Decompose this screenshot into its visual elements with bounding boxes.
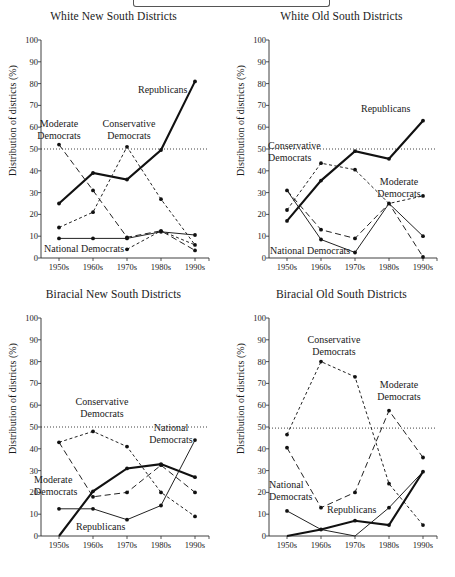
y-tick: 50 [16, 145, 38, 154]
annotation-conservative-democrats: ConservativeDemocrats [301, 334, 367, 357]
y-tick: 90 [16, 58, 38, 67]
y-tick: 0 [244, 532, 266, 541]
y-tick: 10 [244, 510, 266, 519]
y-tick: 100 [244, 314, 266, 323]
chart-panel-white-old-south: White Old South Districts Distribution o… [228, 10, 455, 298]
chart-panel-white-new-south: White New South Districts Distribution o… [0, 10, 227, 298]
y-tick: 20 [16, 210, 38, 219]
y-tick: 0 [16, 254, 38, 263]
y-tick: 80 [16, 358, 38, 367]
y-tick: 80 [244, 358, 266, 367]
x-tick: 1990s [403, 541, 443, 550]
y-tick: 80 [16, 80, 38, 89]
plot-area: 100 90 80 70 60 50 40 30 20 10 0 1950s 1… [269, 318, 437, 536]
y-tick: 50 [244, 145, 266, 154]
y-tick: 30 [244, 189, 266, 198]
y-tick: 20 [244, 210, 266, 219]
y-tick: 60 [16, 401, 38, 410]
plot-area: 100 90 80 70 60 50 40 30 20 10 0 1950s 1… [41, 40, 209, 258]
y-tick: 100 [244, 36, 266, 45]
y-tick: 70 [244, 379, 266, 388]
annotation-moderate-democrats: ModerateDemocrats [34, 474, 77, 497]
series-republicans [59, 81, 195, 203]
chart-panel-biracial-old-south: Biracial Old South Districts Distributio… [228, 288, 455, 576]
data-markers [57, 80, 197, 253]
annotation-moderate-democrats: ModerateDemocrats [33, 118, 85, 141]
chart-panel-biracial-new-south: Biracial New South Districts Distributio… [0, 288, 227, 576]
series-moderate-democrats [59, 145, 195, 251]
x-tick: 1990s [403, 263, 443, 272]
y-tick: 60 [244, 123, 266, 132]
annotation-republicans: Republicans [138, 84, 187, 96]
annotation-conservative-democrats: ConservativeDemocrats [96, 118, 162, 141]
plot-area: 100 90 80 70 60 50 40 30 20 10 0 1950s 1… [269, 40, 437, 258]
y-tick: 70 [16, 379, 38, 388]
y-tick: 40 [244, 445, 266, 454]
y-tick: 0 [244, 254, 266, 263]
annotation-republicans: Republicans [327, 504, 376, 516]
annotation-republicans: Republicans [361, 103, 410, 115]
series-national-democrats [287, 190, 423, 252]
annotation-moderate-democrats: ModerateDemocrats [373, 379, 425, 402]
annotation-moderate-democrats: ModerateDemocrats [373, 176, 425, 199]
y-tick: 60 [244, 401, 266, 410]
y-tick: 30 [16, 189, 38, 198]
y-tick: 0 [16, 532, 38, 541]
y-tick: 90 [16, 336, 38, 345]
y-tick: 70 [16, 101, 38, 110]
y-tick: 100 [16, 314, 38, 323]
chart-title: White Old South Districts [228, 10, 455, 22]
y-tick: 30 [244, 467, 266, 476]
plot-area: 100 90 80 70 60 50 40 30 20 10 0 1950s 1… [41, 318, 209, 536]
annotation-conservative-democrats: ConservativeDemocrats [69, 396, 135, 419]
header-box-partial [133, 0, 330, 7]
y-tick: 40 [16, 445, 38, 454]
y-tick: 10 [16, 510, 38, 519]
y-tick: 80 [244, 80, 266, 89]
x-tick: 1990s [175, 541, 215, 550]
annotation-republicans: Republicans [76, 521, 125, 533]
y-tick: 70 [244, 101, 266, 110]
chart-title: Biracial Old South Districts [228, 288, 455, 300]
y-tick: 40 [244, 167, 266, 176]
chart-title: White New South Districts [0, 10, 227, 22]
annotation-national-democrats: National Democrats [270, 245, 350, 257]
y-tick: 10 [16, 232, 38, 241]
annotation-national-democrats: National Democrats [44, 243, 124, 255]
annotation-national-democrats: NationalDemocrats [145, 422, 197, 445]
y-tick: 90 [244, 336, 266, 345]
annotation-conservative-democrats: ConservativeDemocrats [268, 140, 321, 163]
series-conservative-democrats [59, 147, 195, 245]
y-tick: 40 [16, 167, 38, 176]
y-tick: 90 [244, 58, 266, 67]
y-tick: 50 [16, 423, 38, 432]
y-tick: 20 [244, 488, 266, 497]
y-tick: 10 [244, 232, 266, 241]
x-tick: 1990s [175, 263, 215, 272]
annotation-national-democrats: NationalDemocrats [269, 479, 312, 502]
chart-svg [41, 40, 221, 265]
y-tick: 50 [244, 423, 266, 432]
chart-title: Biracial New South Districts [0, 288, 227, 300]
y-tick: 100 [16, 36, 38, 45]
